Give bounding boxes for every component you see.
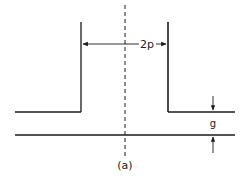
gap-label: g: [210, 118, 216, 129]
diagram-canvas: 2p g (a): [0, 0, 247, 183]
gap-dimension: g: [210, 96, 216, 153]
figure-caption: (a): [117, 159, 132, 172]
left-pole: [15, 22, 81, 112]
width-label: 2p: [140, 38, 154, 51]
right-pole: [168, 22, 235, 112]
